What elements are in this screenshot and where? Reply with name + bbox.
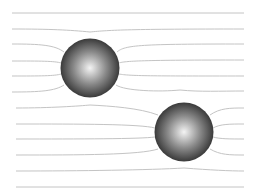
field-line: [16, 149, 244, 155]
sphere-1: [61, 39, 120, 98]
field-line: [16, 168, 244, 171]
diagram-canvas: [0, 0, 255, 193]
sphere-2: [155, 103, 214, 162]
field-lines: [12, 13, 244, 187]
field-line: [12, 60, 244, 63]
field-line: [16, 105, 244, 115]
field-line: [12, 74, 244, 76]
spheres: [61, 39, 214, 162]
field-line: [12, 85, 244, 92]
field-lines-diagram: [0, 0, 255, 193]
field-line: [12, 29, 244, 32]
field-line: [12, 44, 244, 52]
